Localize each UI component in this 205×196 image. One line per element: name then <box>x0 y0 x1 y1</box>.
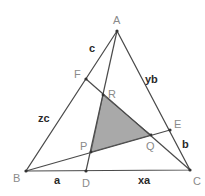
segment-label-af: c <box>89 42 95 54</box>
point-b-dot <box>24 169 27 172</box>
label-e: E <box>174 118 181 130</box>
label-c: C <box>193 175 201 187</box>
point-e-dot <box>168 128 171 131</box>
label-b: B <box>13 172 20 184</box>
point-r-dot <box>102 94 105 97</box>
point-a-dot <box>115 29 118 32</box>
point-d-dot <box>84 169 87 172</box>
segment-label-bd: a <box>54 174 61 186</box>
segment-label-ea: yb <box>145 73 158 85</box>
label-r: R <box>108 88 116 100</box>
label-q: Q <box>146 140 155 152</box>
point-q-dot <box>150 134 153 137</box>
point-p-dot <box>90 151 93 154</box>
label-d: D <box>82 177 90 189</box>
point-c-dot <box>188 168 191 171</box>
label-a: A <box>113 14 121 26</box>
segment-label-fb: zc <box>38 112 50 124</box>
segment-label-dc: xa <box>138 174 151 186</box>
label-f: F <box>74 68 81 80</box>
routh-triangle-diagram: A B C D E F P Q R a xa b yb c zc <box>0 0 205 196</box>
point-f-dot <box>84 77 87 80</box>
label-p: P <box>80 140 87 152</box>
segment-label-ce: b <box>182 138 189 150</box>
